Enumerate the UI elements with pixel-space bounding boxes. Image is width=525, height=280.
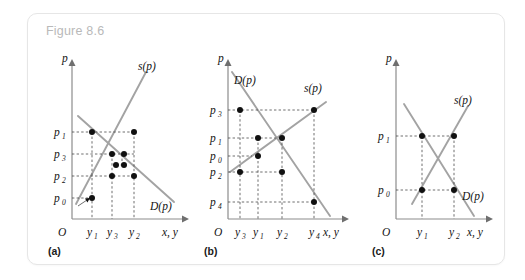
dot-b-1 <box>237 107 243 113</box>
dot-a-7 <box>121 151 127 157</box>
dot-c-4 <box>451 187 457 193</box>
guides-group-c <box>396 136 454 219</box>
dot-b-2 <box>311 107 317 113</box>
supply-curve-b <box>230 102 326 172</box>
y-tick-b-3: p <box>209 166 216 179</box>
panel-a-plot: p x, y O s(p) D(p) p 1 p 3 p 2 p 0 y 1 <box>34 44 194 259</box>
panel-c: p x, y O s(p) D(p) p 1 p 0 y 1 y 2 (c) <box>358 44 508 259</box>
x-axis-label-a: x, y <box>161 226 179 239</box>
x-tick-c-0: y <box>416 226 423 239</box>
y-tick-a-0: p <box>53 126 60 139</box>
y-axis-arrow-b <box>225 59 232 66</box>
x-tick-sub-a-2: 2 <box>136 232 140 241</box>
x-tick-c-1: y <box>448 226 455 239</box>
x-tick-sub-c-1: 2 <box>456 232 460 241</box>
y-tick-b-0: p <box>209 104 216 117</box>
origin-label-c: O <box>382 226 391 238</box>
panel-caption-c: (c) <box>372 245 385 257</box>
dot-a-2 <box>89 129 95 135</box>
x-tick-sub-c-0: 1 <box>424 232 428 241</box>
y-tick-sub-b-1: 1 <box>218 138 222 147</box>
y-tick-sub-c-1: 0 <box>386 190 390 199</box>
x-tick-b-2: y <box>276 226 283 239</box>
panel-b: p x, y O D(p) s(p) p 3 p 1 p 0 p 2 p 4 <box>190 44 365 259</box>
supply-label-c: s(p) <box>454 94 472 107</box>
dot-b-5 <box>255 153 261 159</box>
panel-caption-b: (b) <box>204 245 217 257</box>
figure-title: Figure 8.6 <box>46 24 104 38</box>
x-tick-sub-a-1: 3 <box>113 232 118 241</box>
y-axis-arrow-c <box>393 59 400 66</box>
y-axis-label-c: p <box>385 52 392 65</box>
y-axis-arrow-a <box>69 59 76 66</box>
dot-b-4 <box>279 135 285 141</box>
dot-b-8 <box>311 199 317 205</box>
x-tick-sub-b-2: 2 <box>284 232 288 241</box>
x-tick-b-0: y <box>234 226 241 239</box>
supply-label-a: s(p) <box>138 60 156 73</box>
dot-c-1 <box>419 133 425 139</box>
y-tick-sub-a-3: 0 <box>62 198 66 207</box>
y-tick-b-2: p <box>209 150 216 163</box>
dot-b-6 <box>237 169 243 175</box>
y-tick-a-2: p <box>53 170 60 183</box>
x-tick-sub-b-1: 1 <box>260 232 264 241</box>
origin-label-a: O <box>58 226 67 238</box>
x-ticklabels-b: y 3 y 1 y 2 y 4 <box>234 226 320 241</box>
x-axis-arrow-a <box>182 216 189 223</box>
x-tick-a-0: y <box>86 226 93 239</box>
x-tick-sub-a-0: 1 <box>94 232 98 241</box>
x-tick-b-3: y <box>308 226 315 239</box>
dot-b-3 <box>255 135 261 141</box>
panel-a: p x, y O s(p) D(p) p 1 p 3 p 2 p 0 y 1 <box>34 44 194 259</box>
y-tick-sub-a-2: 2 <box>62 176 66 185</box>
dot-a-1 <box>89 195 95 201</box>
y-tick-sub-c-0: 1 <box>386 136 390 145</box>
y-tick-a-1: p <box>53 148 60 161</box>
y-ticklabels-c: p 1 p 0 <box>377 130 390 199</box>
dot-b-7 <box>279 169 285 175</box>
supply-curve-a <box>76 72 146 204</box>
dot-a-4 <box>131 173 137 179</box>
demand-curve-a <box>78 116 174 202</box>
dot-a-8 <box>121 162 127 168</box>
guides-group-a <box>72 132 134 219</box>
origin-label-b: O <box>214 226 223 238</box>
y-ticklabels-a: p 1 p 3 p 2 p 0 <box>53 126 66 207</box>
dot-a-3 <box>131 129 137 135</box>
demand-label-c: D(p) <box>461 190 484 203</box>
x-axis-arrow-b <box>342 216 349 223</box>
supply-label-b: s(p) <box>304 82 322 95</box>
panel-b-plot: p x, y O D(p) s(p) p 3 p 1 p 0 p 2 p 4 <box>190 44 365 259</box>
y-tick-b-4: p <box>209 196 216 209</box>
y-tick-c-0: p <box>377 130 384 143</box>
x-tick-sub-b-0: 3 <box>241 232 246 241</box>
y-tick-sub-b-3: 2 <box>218 172 222 181</box>
y-tick-sub-b-4: 4 <box>218 202 222 211</box>
dot-a-6 <box>109 151 115 157</box>
y-tick-b-1: p <box>209 132 216 145</box>
x-tick-a-1: y <box>106 226 113 239</box>
figure-card: Figure 8.6 <box>27 13 505 265</box>
dots-group-b <box>237 107 317 205</box>
dot-a-5 <box>109 173 115 179</box>
x-tick-sub-b-3: 4 <box>316 232 320 241</box>
y-axis-label-b: p <box>217 52 224 65</box>
y-tick-sub-a-0: 1 <box>62 132 66 141</box>
x-axis-label-c: x, y <box>466 226 484 239</box>
x-axis-arrow-c <box>486 216 493 223</box>
curves-group-a <box>76 72 174 204</box>
y-ticklabels-b: p 3 p 1 p 0 p 2 p 4 <box>209 104 222 211</box>
x-ticklabels-c: y 1 y 2 <box>416 226 460 241</box>
dot-c-2 <box>451 133 457 139</box>
x-tick-b-1: y <box>252 226 259 239</box>
dots-group-c <box>419 133 457 193</box>
y-tick-sub-b-2: 0 <box>218 156 222 165</box>
x-ticklabels-a: y 1 y 3 y 2 <box>86 226 140 241</box>
panel-caption-a: (a) <box>48 245 61 257</box>
panel-c-plot: p x, y O s(p) D(p) p 1 p 0 y 1 y 2 <box>358 44 508 259</box>
y-tick-a-3: p <box>53 192 60 205</box>
x-axis-label-b: x, y <box>322 226 340 239</box>
y-tick-sub-b-0: 3 <box>217 110 222 119</box>
demand-label-a: D(p) <box>149 200 172 213</box>
